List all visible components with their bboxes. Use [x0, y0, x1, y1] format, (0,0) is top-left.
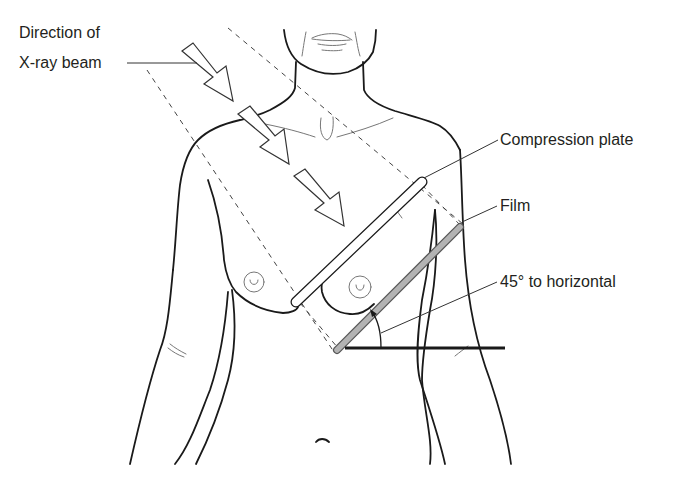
- mammography-diagram: [0, 0, 682, 490]
- neck-right: [363, 62, 460, 150]
- elbow-crease-left: [170, 344, 186, 354]
- left-nipple-inner: [250, 280, 258, 285]
- beam-arrow-1: [182, 43, 233, 101]
- left-nipple-outer: [244, 272, 264, 292]
- left-arm-inner: [175, 292, 228, 464]
- clavicle-right: [337, 118, 393, 137]
- label-beam-direction-line1: Direction of: [19, 23, 100, 42]
- label-angle: 45° to horizontal: [500, 272, 616, 291]
- beam-arrow-3: [294, 169, 344, 226]
- plate-edge-bottom: [300, 303, 338, 348]
- left-chest: [208, 180, 298, 313]
- leader-film: [462, 206, 497, 222]
- sternal-notch: [320, 117, 333, 140]
- elbow-crease-left-2: [168, 348, 184, 357]
- left-arm-outer: [130, 270, 173, 464]
- right-nipple-outer: [349, 276, 371, 298]
- navel: [316, 439, 329, 442]
- label-film: Film: [500, 196, 530, 215]
- head: [284, 30, 376, 74]
- label-beam-direction-line2: X-ray beam: [19, 53, 102, 72]
- right-nipple-inner: [356, 285, 364, 290]
- beam-arrow-2: [238, 106, 289, 164]
- left-torso-side: [196, 290, 235, 464]
- plate-edge-top: [422, 185, 460, 225]
- label-compression-plate: Compression plate: [500, 130, 633, 149]
